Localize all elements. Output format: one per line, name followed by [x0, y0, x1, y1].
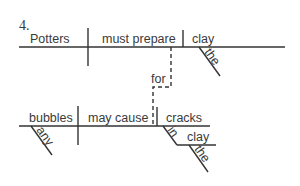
prep-object-modifier: the: [192, 143, 213, 165]
main-object-modifier: the: [202, 46, 223, 68]
sub-subject-modifier: any: [34, 124, 57, 149]
main-verb: must prepare: [102, 32, 176, 46]
sub-verb: may cause: [88, 111, 148, 125]
sentence-diagram: 4. Potters must prepare clay the for bub…: [0, 0, 300, 186]
prep-object: clay: [187, 130, 210, 144]
main-object: clay: [192, 32, 215, 46]
main-subject: Potters: [30, 32, 70, 46]
sub-subject: bubbles: [29, 111, 73, 125]
main-clause: Potters must prepare clay the: [19, 28, 285, 76]
connector-word: for: [151, 72, 166, 86]
sub-clause: bubbles any may cause cracks in clay the: [19, 106, 216, 172]
exercise-number: 4.: [19, 18, 30, 33]
sub-object: cracks: [166, 111, 202, 125]
